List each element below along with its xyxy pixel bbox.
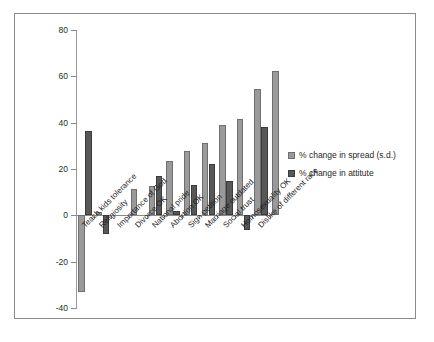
- x-axis-tick: [111, 215, 112, 219]
- x-axis-tick: [94, 215, 95, 219]
- x-axis-tick: [129, 215, 130, 219]
- y-axis-tick: [71, 123, 77, 124]
- x-axis-tick: [252, 215, 253, 219]
- bar-spread: [219, 125, 225, 216]
- legend-swatch-spread-icon: [288, 152, 295, 159]
- y-axis-tick-label: 20: [24, 165, 68, 174]
- x-axis-tick: [199, 215, 200, 219]
- bar-spread: [78, 215, 84, 291]
- y-axis-tick: [71, 169, 77, 170]
- bar-attitute: [156, 176, 162, 215]
- y-axis-labels: 806040200-20-40: [22, 0, 68, 342]
- x-axis-tick: [147, 215, 148, 219]
- y-axis-tick-label: -20: [24, 257, 68, 266]
- legend-label-spread: % change in spread (s.d.): [299, 150, 396, 160]
- bar-attitute: [261, 127, 267, 215]
- bar-attitute: [173, 211, 179, 215]
- x-axis-tick: [182, 215, 183, 219]
- y-axis-tick: [71, 215, 77, 216]
- bar-attitute: [191, 185, 197, 215]
- y-axis-tick: [71, 30, 77, 31]
- chart-page: 806040200-20-40 Teach kids toleranceReli…: [0, 0, 434, 342]
- legend-item-attitute: % change in attitute: [288, 168, 412, 178]
- bar-spread: [254, 89, 260, 215]
- bar-spread: [237, 119, 243, 215]
- y-axis-tick-label: 40: [24, 118, 68, 127]
- y-axis-tick: [71, 76, 77, 77]
- y-axis-tick-label: 0: [24, 211, 68, 220]
- bar-spread: [202, 143, 208, 216]
- chart-legend: % change in spread (s.d.) % change in at…: [288, 150, 412, 186]
- bar-attitute: [209, 164, 215, 216]
- bar-spread: [166, 161, 172, 215]
- bar-attitute: [103, 215, 109, 234]
- y-axis-tick: [71, 262, 77, 263]
- y-axis-tick-label: 60: [24, 72, 68, 81]
- bar-spread: [184, 151, 190, 215]
- x-axis-tick: [270, 215, 271, 219]
- bar-attitute: [85, 131, 91, 216]
- x-axis-tick: [164, 215, 165, 219]
- bar-spread: [131, 189, 137, 216]
- legend-item-spread: % change in spread (s.d.): [288, 150, 412, 160]
- legend-label-attitute: % change in attitute: [299, 168, 374, 178]
- bar-spread: [272, 71, 278, 216]
- y-axis-tick-label: -40: [24, 304, 68, 313]
- bar-spread: [96, 212, 102, 215]
- bar-attitute: [226, 181, 232, 216]
- y-axis-tick-label: 80: [24, 26, 68, 35]
- y-axis-tick: [71, 308, 77, 309]
- x-axis-tick: [217, 215, 218, 219]
- bar-spread: [149, 186, 155, 215]
- legend-swatch-attitute-icon: [288, 170, 295, 177]
- bar-attitute: [244, 215, 250, 230]
- x-axis-tick: [235, 215, 236, 219]
